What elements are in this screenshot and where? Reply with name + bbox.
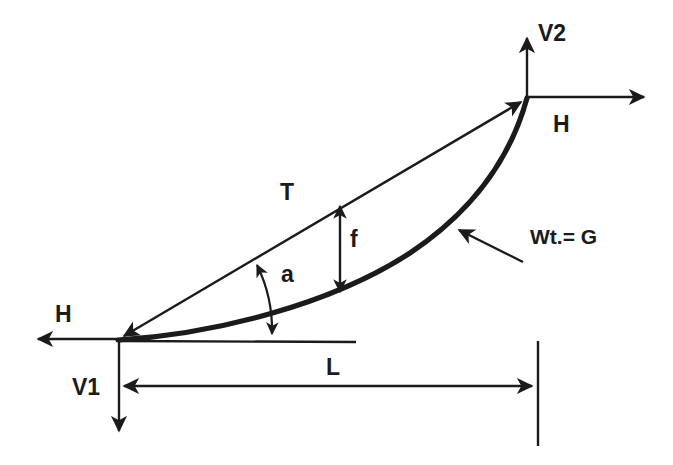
v1-label: V1	[72, 374, 100, 400]
weight-label: Wt.= G	[530, 225, 597, 248]
catenary-force-diagram: V2 H T f a H V1	[0, 0, 673, 465]
left-vertical-reaction-group: V1	[72, 339, 119, 431]
tension-label: T	[280, 179, 294, 205]
span-label: L	[326, 354, 340, 380]
sag-dimension-group: f	[340, 206, 358, 292]
diagram-canvas: V2 H T f a H V1	[0, 0, 673, 465]
span-dimension-group: L	[124, 341, 538, 446]
right-horizontal-reaction-group: H	[527, 97, 644, 137]
sag-label: f	[350, 226, 358, 252]
angle-arc	[257, 265, 272, 334]
horizontal-baseline	[118, 341, 356, 342]
left-horizontal-reaction-group: H	[38, 301, 118, 339]
weight-leader-arrow	[459, 230, 523, 262]
angle-label: a	[281, 261, 294, 287]
right-support-reaction-group: V2	[527, 20, 566, 97]
angle-arc-group: a	[257, 261, 294, 334]
tension-chord-arrow	[124, 102, 521, 336]
v2-label: V2	[538, 20, 566, 46]
h-right-label: H	[553, 111, 570, 137]
h-left-label: H	[55, 301, 72, 327]
weight-callout-group: Wt.= G	[459, 225, 597, 262]
